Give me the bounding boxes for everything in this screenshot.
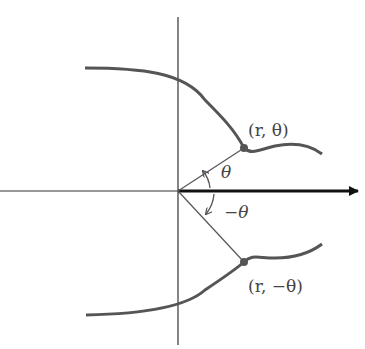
polar-symmetry-diagram: (r, θ) (r, −θ) θ −θ (0, 0, 365, 349)
label-point-upper: (r, θ) (248, 120, 289, 140)
point-lower (240, 258, 248, 266)
label-point-lower: (r, −θ) (248, 276, 303, 296)
angle-arc-negative-theta (206, 194, 214, 214)
label-angle-negative-theta: −θ (224, 202, 248, 222)
point-upper (240, 144, 248, 152)
ray-theta (178, 148, 244, 191)
curve-upper (85, 68, 322, 154)
label-angle-theta: θ (221, 162, 231, 182)
